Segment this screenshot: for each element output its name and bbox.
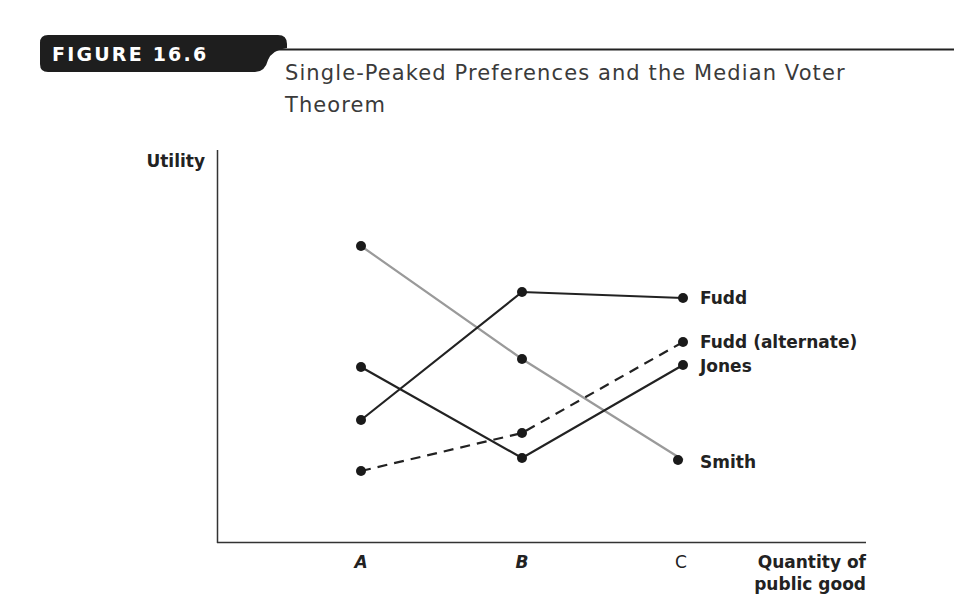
point-jones-a [356, 362, 366, 372]
figure-container: FIGURE 16.6 Single-Peaked Preferences an… [0, 0, 954, 614]
x-tick-a: A [352, 552, 367, 572]
point-jones-c [678, 360, 688, 370]
point-fudd-alt-a [356, 466, 366, 476]
point-fudd-b [517, 287, 527, 297]
x-tick-b: B [516, 552, 529, 572]
point-fudd-alt-b [517, 428, 527, 438]
series-line-smith [361, 246, 683, 460]
series-labels: Fudd Fudd (alternate) Jones Smith [699, 288, 857, 472]
point-fudd-c [678, 293, 688, 303]
y-axis-label: Utility [146, 151, 205, 171]
figure-title-line1: Single-Peaked Preferences and the Median… [285, 61, 846, 85]
chart-axes: Utility A B C Quantity of public good [146, 150, 866, 594]
point-smith-c [673, 455, 683, 465]
x-axis-label-line1: Quantity of [758, 552, 867, 572]
point-jones-b [517, 453, 527, 463]
figure-title-line2: Theorem [284, 93, 386, 117]
point-smith-b [517, 354, 527, 364]
series-line-jones [361, 365, 683, 458]
label-jones: Jones [699, 356, 752, 376]
label-fudd: Fudd [700, 288, 747, 308]
figure-number: FIGURE 16.6 [52, 43, 208, 65]
point-fudd-a [356, 415, 366, 425]
label-smith: Smith [700, 452, 756, 472]
point-fudd-alt-c [678, 337, 688, 347]
x-tick-c: C [675, 552, 687, 572]
point-smith-a [356, 241, 366, 251]
x-axis-label-line2: public good [754, 574, 866, 594]
label-fudd-alternate: Fudd (alternate) [700, 332, 857, 352]
